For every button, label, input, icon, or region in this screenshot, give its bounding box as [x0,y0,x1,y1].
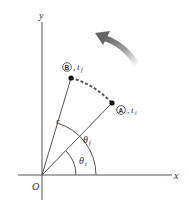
svg-text:θ: θ [83,134,88,145]
svg-text:θ: θ [79,155,84,166]
svg-text:A: A [119,107,124,114]
svg-text:,: , [127,105,129,115]
svg-text:i: i [85,161,87,167]
svg-text:f: f [89,140,92,146]
origin-label: O [32,181,39,192]
svg-text:i: i [135,110,137,116]
point-b-label: B , t f [63,62,84,73]
point-b [68,75,73,80]
point-a-label: A , t i [117,105,137,116]
svg-text:t: t [77,62,80,72]
rotation-direction-arrow-icon [95,31,137,65]
point-a [109,100,114,105]
svg-text:f: f [81,67,84,73]
theta-f-label: θ f [83,134,92,146]
svg-text:t: t [131,105,134,115]
svg-text:,: , [73,62,75,72]
dashed-trajectory [71,78,112,103]
radius-label: r [56,116,60,126]
theta-i-arc [66,151,76,175]
svg-text:B: B [65,64,70,71]
theta-i-label: θ i [79,155,87,167]
theta-f-arc [57,123,96,175]
x-axis-label: x [173,170,179,181]
polar-motion-diagram: y x O r B , t f A , t i θ f θ i [0,0,189,209]
y-axis-label: y [38,10,44,21]
